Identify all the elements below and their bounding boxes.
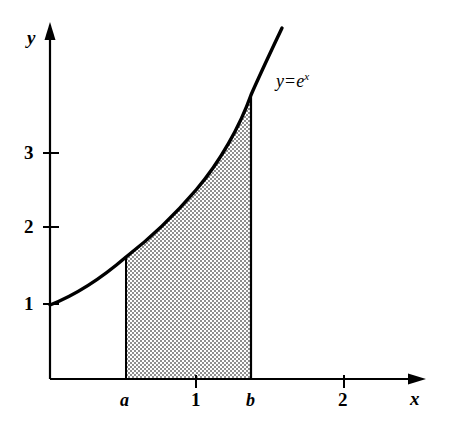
curve-label-exponent: x: [304, 70, 309, 82]
curve-label-lhs: y: [276, 71, 284, 91]
x-tick-label-1: 1: [191, 390, 201, 409]
y-tick-label-3: 3: [24, 143, 34, 162]
x-tick-label-a: a: [120, 391, 129, 409]
x-axis-label: x: [410, 389, 420, 408]
x-tick-label-2: 2: [338, 390, 348, 409]
exponential-area-figure: y x 3 2 1 a 1 b 2 y=ex: [0, 0, 450, 424]
curve-label-base: e: [296, 71, 304, 91]
x-axis-arrow-icon: [408, 374, 426, 385]
curve-label-equals: =: [284, 71, 296, 91]
y-tick-label-1: 1: [24, 294, 34, 313]
plot-canvas: [0, 0, 450, 424]
y-axis-label: y: [27, 28, 35, 47]
x-tick-label-b: b: [246, 391, 255, 409]
y-axis-arrow-icon: [45, 22, 56, 40]
y-axis: [45, 22, 56, 379]
curve-equation-label: y=ex: [276, 72, 309, 90]
y-tick-label-2: 2: [24, 217, 34, 236]
